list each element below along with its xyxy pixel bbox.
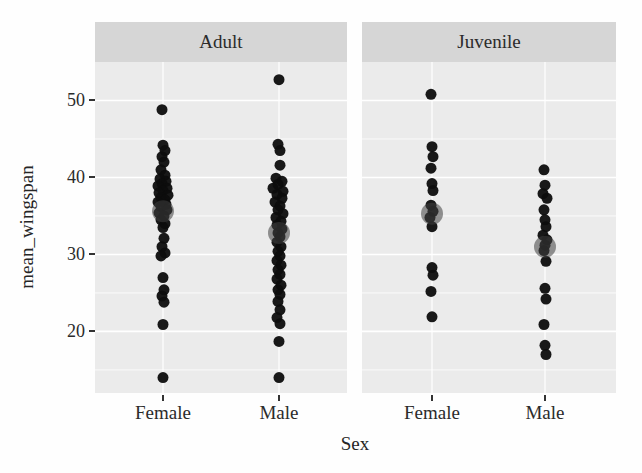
y-axis-title: mean_wingspan	[16, 165, 38, 288]
y-tick-label: 50	[40, 89, 85, 111]
x-tick-mark	[544, 395, 546, 401]
data-point	[159, 297, 170, 308]
data-point	[426, 163, 437, 174]
data-point	[428, 151, 439, 162]
facet-strip-adult-label: Adult	[199, 31, 242, 53]
data-point	[539, 164, 550, 175]
data-point	[541, 294, 552, 305]
data-point	[158, 272, 169, 283]
data-point	[157, 104, 168, 115]
data-point	[539, 319, 550, 330]
panel-juvenile-canvas	[362, 62, 616, 393]
data-point	[158, 222, 169, 233]
data-point	[542, 193, 553, 204]
data-point	[427, 141, 438, 152]
x-category-label: Female	[118, 402, 208, 424]
group-mean-point	[534, 236, 556, 258]
group-mean-point	[268, 222, 290, 244]
y-tick-label: 30	[40, 243, 85, 265]
facet-strip-adult: Adult	[95, 22, 347, 62]
data-point	[158, 319, 169, 330]
group-mean-point	[152, 200, 174, 222]
data-point	[540, 283, 551, 294]
data-point	[428, 270, 439, 281]
data-point	[541, 349, 552, 360]
panel-adult	[95, 62, 347, 393]
x-category-label: Male	[234, 402, 324, 424]
data-point	[275, 160, 286, 171]
data-point	[158, 372, 169, 383]
data-point	[274, 74, 285, 85]
data-point	[275, 318, 286, 329]
data-point	[539, 204, 550, 215]
faceted-scatter-figure: mean_wingspan 50403020 Adult Juvenile Fe…	[0, 0, 642, 473]
panel-adult-canvas	[95, 62, 347, 393]
x-tick-mark	[431, 395, 433, 401]
panel-juvenile	[362, 62, 616, 393]
facet-strip-juvenile-label: Juvenile	[457, 31, 520, 53]
x-tick-mark	[162, 395, 164, 401]
data-point	[274, 372, 285, 383]
data-point	[428, 185, 439, 196]
x-axis-title: Sex	[315, 433, 395, 455]
data-point	[274, 336, 285, 347]
facet-strip-juvenile: Juvenile	[362, 22, 616, 62]
group-mean-point	[421, 203, 443, 225]
data-point	[426, 286, 437, 297]
x-category-label: Male	[500, 402, 590, 424]
data-point	[275, 145, 286, 156]
x-tick-mark	[278, 395, 280, 401]
data-point	[426, 89, 437, 100]
y-tick-label: 20	[40, 320, 85, 342]
data-point	[427, 311, 438, 322]
y-tick-label: 40	[40, 166, 85, 188]
data-point	[156, 250, 167, 261]
x-category-label: Female	[387, 402, 477, 424]
